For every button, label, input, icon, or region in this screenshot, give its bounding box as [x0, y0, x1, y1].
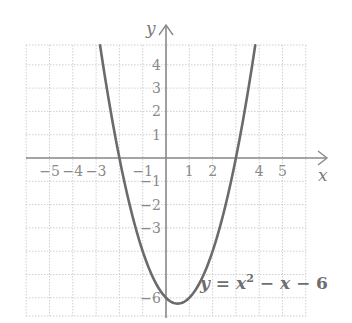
x-tick-label: 2	[208, 163, 217, 179]
y-tick-label: 2	[152, 103, 161, 119]
x-tick-label: −5	[39, 163, 60, 179]
y-tick-label: −1	[140, 173, 161, 189]
x-tick-label: 4	[255, 163, 264, 179]
y-tick-label: 1	[152, 127, 161, 143]
tick-labels: −5−4−3−112454321−1−2−3−6	[39, 57, 287, 306]
y-tick-label: 3	[152, 80, 161, 96]
graph-canvas: −5−4−3−112454321−1−2−3−6 x y y = x2 − x …	[0, 0, 352, 323]
x-tick-label: 1	[185, 163, 194, 179]
y-tick-label: −3	[140, 220, 161, 236]
y-tick-label: −2	[140, 197, 161, 213]
x-tick-label: −3	[86, 163, 107, 179]
y-axis-label: y	[145, 18, 156, 38]
parabola-curve	[100, 45, 255, 303]
x-axis-label: x	[318, 165, 328, 185]
equation-label: y = x2 − x − 6	[199, 272, 328, 293]
y-tick-label: 4	[152, 57, 161, 73]
y-tick-label: −6	[140, 290, 161, 306]
x-tick-label: −4	[62, 163, 83, 179]
x-tick-label: 5	[278, 163, 287, 179]
